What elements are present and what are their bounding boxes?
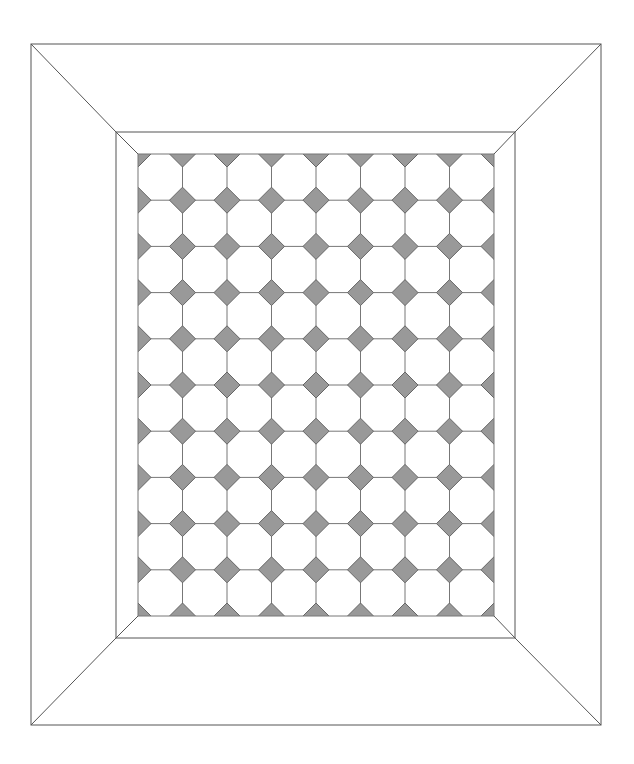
floor-plan-drawing [0, 0, 634, 764]
tile-floor-diagram [0, 0, 634, 764]
mitre-line [494, 44, 601, 154]
tile-grid [125, 141, 507, 629]
mitre-line [31, 616, 138, 725]
tile-field [125, 141, 507, 629]
mitre-line [31, 44, 138, 154]
mitre-line [494, 616, 601, 725]
